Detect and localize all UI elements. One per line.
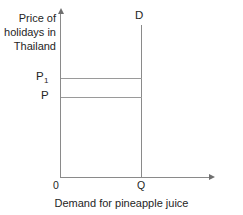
price-line-p1 bbox=[61, 78, 142, 79]
x-tick-label-q: Q bbox=[137, 179, 145, 191]
origin-label: 0 bbox=[53, 179, 59, 191]
demand-curve-line bbox=[141, 25, 142, 177]
x-axis-caption: Demand for pineapple juice bbox=[0, 197, 243, 209]
demand-diagram-figure: Price of holidays in Thailand P1 P 0 Q D… bbox=[0, 0, 243, 215]
price-line-p bbox=[61, 97, 142, 98]
y-axis-label: Price of holidays in Thailand bbox=[0, 11, 56, 54]
y-axis-line bbox=[60, 13, 61, 178]
arrow-right-icon bbox=[209, 174, 215, 180]
y-tick-label-p1-base: P bbox=[36, 70, 44, 82]
y-tick-label-p1-subscript: 1 bbox=[44, 76, 48, 85]
demand-curve-label: D bbox=[135, 9, 143, 21]
y-tick-label-p: P bbox=[41, 89, 49, 101]
arrow-up-icon bbox=[58, 8, 64, 14]
y-tick-label-p1: P1 bbox=[36, 70, 48, 82]
x-axis-line bbox=[60, 177, 210, 178]
